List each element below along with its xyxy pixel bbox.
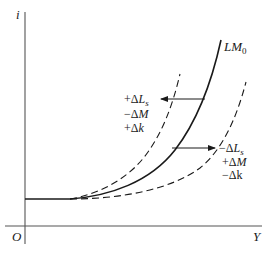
variable: k xyxy=(237,168,243,182)
lm-curve-diagram: i Y O LM0 +ΔLs −ΔM +Δk −ΔLs +ΔM −Δk xyxy=(0,0,268,253)
delta-symbol: Δ xyxy=(229,155,237,169)
variable: M xyxy=(237,155,247,169)
sign: − xyxy=(222,168,229,182)
left-shift-label-m: −ΔM xyxy=(124,108,149,120)
lm0-label-subscript: 0 xyxy=(242,46,247,56)
sign: + xyxy=(124,92,131,106)
x-axis-label: Y xyxy=(253,230,260,243)
right-shift-label-m: +ΔM xyxy=(222,156,247,168)
lm0-label-name: LM xyxy=(224,39,242,54)
lm0-label: LM0 xyxy=(224,40,247,56)
sign: + xyxy=(222,155,229,169)
delta-symbol: Δ xyxy=(226,141,234,155)
delta-symbol: Δ xyxy=(131,121,139,135)
left-shift-label-ls: +ΔLs xyxy=(124,93,149,108)
sign: − xyxy=(124,107,131,121)
right-shift-label-k: −Δk xyxy=(222,169,243,181)
left-shift-label-k: +Δk xyxy=(124,122,144,134)
delta-symbol: Δ xyxy=(229,168,237,182)
variable: M xyxy=(139,107,149,121)
delta-symbol: Δ xyxy=(131,92,139,106)
sign: − xyxy=(219,141,226,155)
delta-symbol: Δ xyxy=(131,107,139,121)
origin-label: O xyxy=(12,230,21,243)
variable: k xyxy=(139,121,144,135)
y-axis-label: i xyxy=(16,8,20,21)
sign: + xyxy=(124,121,131,135)
